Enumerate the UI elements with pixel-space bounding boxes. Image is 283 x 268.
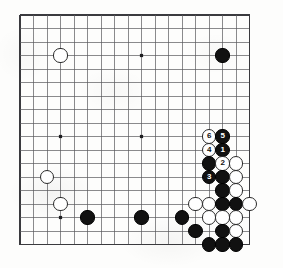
stone-white: [215, 210, 229, 224]
stone-black: [215, 48, 229, 62]
move-stone-4-white: 4: [202, 143, 216, 157]
stone-white: [229, 210, 243, 224]
stone-white: [53, 197, 67, 211]
move-stone-6-white: 6: [202, 129, 216, 143]
stone-black: [80, 210, 94, 224]
stone-black: [215, 197, 229, 211]
go-board-diagram: 654123: [0, 0, 283, 268]
stone-white: [242, 197, 256, 211]
stone-black: [202, 156, 216, 170]
stone-white: [229, 183, 243, 197]
move-stone-1-black: 1: [215, 143, 229, 157]
stone-black: [229, 237, 243, 251]
stone-white: [229, 156, 243, 170]
move-stone-3-black: 3: [202, 170, 216, 184]
move-number-label: 2: [220, 159, 224, 167]
stone-white: [202, 210, 216, 224]
stone-black: [215, 224, 229, 238]
stone-black: [202, 237, 216, 251]
stone-white: [188, 197, 202, 211]
stone-white: [229, 170, 243, 184]
stone-black: [215, 237, 229, 251]
stone-black: [188, 224, 202, 238]
stone-black: [215, 170, 229, 184]
move-number-label: 1: [220, 146, 224, 154]
move-stone-5-black: 5: [215, 129, 229, 143]
move-number-label: 5: [220, 132, 224, 140]
stone-black: [134, 210, 148, 224]
move-number-label: 6: [207, 132, 211, 140]
stone-black: [215, 183, 229, 197]
move-number-label: 3: [207, 173, 211, 181]
stone-black: [175, 210, 189, 224]
move-stone-2-white: 2: [215, 156, 229, 170]
stone-white: [202, 197, 216, 211]
stone-black: [229, 197, 243, 211]
stone-white: [229, 224, 243, 238]
move-number-label: 4: [207, 146, 211, 154]
stone-white: [53, 48, 67, 62]
stone-white: [40, 170, 54, 184]
